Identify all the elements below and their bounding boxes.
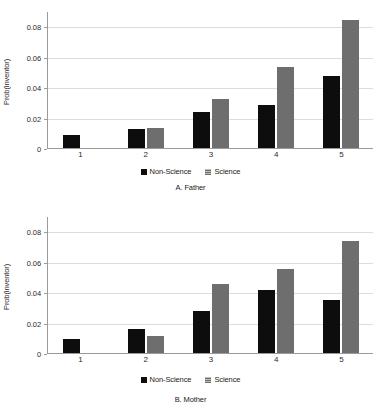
legend-swatch-non-science-icon [141,169,147,175]
bar-non-science-4 [258,290,275,353]
y-tick-mark [44,263,47,264]
figure-root: Prob(inventor) 00.020.040.060.08 12345 N… [0,0,381,410]
y-tick-label: 0.02 [27,319,41,328]
y-tick-mark [44,354,47,355]
y-tick-mark [44,324,47,325]
bars-mother [48,217,373,353]
y-tick-label: 0.06 [27,53,41,62]
panel-caption-mother: B. Mother [0,395,381,404]
x-axis-line [47,353,373,354]
bar-non-science-3 [193,112,210,148]
y-tick-mark [44,232,47,233]
x-tick-label: 4 [274,355,278,364]
legend-label-science: Science [214,375,240,384]
x-tick-label: 5 [339,355,343,364]
x-tick-label: 1 [78,355,82,364]
chart-panel-father: Prob(inventor) 00.020.040.060.08 12345 N… [0,0,381,205]
legend-label-non-science: Non-Science [150,167,192,176]
bar-science-3 [212,99,229,148]
y-tick-label: 0.02 [27,114,41,123]
y-tick-label: 0 [37,145,41,154]
legend-father: Non-Science Science [0,167,381,176]
bar-science-2 [147,336,164,353]
bar-science-5 [342,241,359,353]
panel-caption-father: A. Father [0,183,381,192]
legend-mother: Non-Science Science [0,375,381,384]
y-axis-tick-labels: 00.020.040.060.08 [16,0,44,160]
bar-non-science-5 [323,76,340,148]
x-tick-label: 1 [78,150,82,159]
legend-label-non-science: Non-Science [150,375,192,384]
x-tick-label: 3 [209,355,213,364]
legend-swatch-non-science-icon [141,377,147,383]
y-axis-label: Prob(inventor) [2,241,16,333]
bar-non-science-2 [128,329,145,353]
bar-non-science-2 [128,129,145,148]
x-tick-label: 4 [274,150,278,159]
axes-father [47,12,373,149]
axes-mother [47,217,373,354]
y-tick-label: 0 [37,350,41,359]
bar-science-4 [277,67,294,148]
bar-science-5 [342,20,359,148]
x-axis-tick-labels: 12345 [48,355,374,369]
plot-area-mother: Prob(inventor) 00.020.040.060.08 12345 [0,205,381,365]
bar-non-science-4 [258,105,275,148]
plot-area-father: Prob(inventor) 00.020.040.060.08 12345 [0,0,381,160]
y-tick-mark [44,88,47,89]
bar-science-4 [277,269,294,353]
x-tick-label: 2 [144,150,148,159]
y-axis-label: Prob(inventor) [2,36,16,128]
legend-item-science: Science [205,167,240,176]
y-tick-label: 0.04 [27,84,41,93]
y-tick-mark [44,27,47,28]
y-tick-mark [44,119,47,120]
legend-item-non-science: Non-Science [141,375,192,384]
bar-non-science-3 [193,311,210,353]
x-tick-label: 5 [339,150,343,159]
y-tick-label: 0.06 [27,258,41,267]
x-axis-tick-labels: 12345 [48,150,374,164]
legend-item-science: Science [205,375,240,384]
legend-item-non-science: Non-Science [141,167,192,176]
y-tick-mark [44,293,47,294]
bars-father [48,12,373,148]
y-tick-mark [44,58,47,59]
bar-non-science-5 [323,300,340,353]
legend-label-science: Science [214,167,240,176]
y-axis-tick-labels: 00.020.040.060.08 [16,205,44,365]
chart-panel-mother: Prob(inventor) 00.020.040.060.08 12345 N… [0,205,381,410]
y-tick-label: 0.08 [27,23,41,32]
bar-science-2 [147,128,164,148]
x-tick-label: 3 [209,150,213,159]
legend-swatch-science-icon [205,377,211,383]
x-tick-label: 2 [144,355,148,364]
y-tick-mark [44,149,47,150]
y-tick-label: 0.04 [27,289,41,298]
bar-non-science-1 [63,339,80,353]
legend-swatch-science-icon [205,169,211,175]
bar-non-science-1 [63,135,80,148]
bar-science-3 [212,284,229,353]
y-tick-label: 0.08 [27,228,41,237]
x-axis-line [47,148,373,149]
